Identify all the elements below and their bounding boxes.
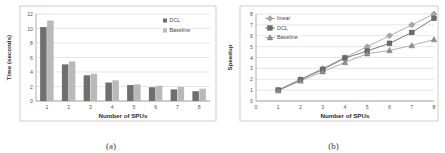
- bar-chart-plot-area: 02468101212345678Number of SPUsTime (sec…: [0, 0, 222, 125]
- y-axis-title: Time (seconds): [5, 35, 12, 80]
- bar-dcl: [149, 87, 156, 101]
- panel-b-caption: (b): [222, 141, 445, 151]
- legend-label-baseline: Baseline: [277, 34, 298, 40]
- x-tick-label: 7: [176, 104, 179, 110]
- panel-a-caption: (a): [0, 141, 222, 151]
- bar-baseline: [69, 61, 76, 101]
- marker-dcl: [409, 30, 414, 35]
- x-tick-label: 8: [433, 104, 436, 110]
- bar-dcl: [105, 83, 112, 101]
- x-tick-label: 3: [89, 104, 92, 110]
- y-tick-label: 7: [250, 22, 253, 28]
- line-chart-svg: 012345678012345678Number of SPUsSpeedupl…: [222, 0, 445, 125]
- bar-dcl: [84, 75, 91, 101]
- bar-dcl: [171, 89, 178, 101]
- marker-baseline: [431, 37, 437, 42]
- y-tick-label: 6: [30, 55, 33, 61]
- bar-dcl: [192, 91, 199, 101]
- x-tick-label: 3: [321, 104, 324, 110]
- y-tick-label: 3: [250, 65, 253, 71]
- panel-b: 012345678012345678Number of SPUsSpeedupl…: [222, 0, 445, 153]
- marker-dcl: [387, 41, 392, 46]
- chart-frame: [240, 6, 438, 121]
- y-tick-label: 5: [250, 44, 253, 50]
- y-tick-label: 2: [250, 76, 253, 82]
- x-tick-label: 1: [45, 104, 48, 110]
- bar-chart-svg: 02468101212345678Number of SPUsTime (sec…: [0, 0, 222, 125]
- legend-label-dcl: DCL: [170, 17, 181, 23]
- bar-baseline: [199, 89, 206, 101]
- bar-baseline: [156, 86, 163, 101]
- x-axis-title: Number of SPUs: [321, 112, 370, 119]
- x-tick-label: 6: [388, 104, 391, 110]
- x-tick-label: 2: [67, 104, 70, 110]
- y-tick-label: 0: [30, 98, 33, 104]
- y-tick-label: 12: [27, 11, 33, 17]
- y-tick-label: 4: [30, 69, 33, 75]
- marker-linear: [409, 22, 415, 28]
- x-tick-label: 4: [111, 104, 114, 110]
- bar-dcl: [62, 64, 69, 101]
- y-tick-label: 0: [250, 98, 253, 104]
- x-tick-label: 8: [198, 104, 201, 110]
- bar-baseline: [47, 21, 54, 101]
- y-tick-label: 1: [250, 87, 253, 93]
- legend-label-baseline: Baseline: [170, 27, 191, 33]
- x-tick-label: 2: [299, 104, 302, 110]
- line-chart-plot-area: 012345678012345678Number of SPUsSpeedupl…: [222, 0, 445, 125]
- legend-label-dcl: DCL: [277, 25, 288, 31]
- x-tick-label: 6: [154, 104, 157, 110]
- figure-two-panel-charts: 02468101212345678Number of SPUsTime (sec…: [0, 0, 445, 153]
- marker-dcl: [432, 16, 437, 21]
- legend-marker-linear: [267, 16, 273, 22]
- y-tick-label: 4: [250, 55, 253, 61]
- y-tick-label: 8: [30, 40, 33, 46]
- marker-linear: [387, 33, 393, 39]
- bar-dcl: [40, 27, 47, 101]
- bar-baseline: [112, 80, 119, 101]
- bar-baseline: [134, 84, 141, 101]
- x-tick-label: 0: [255, 104, 258, 110]
- x-tick-label: 5: [132, 104, 135, 110]
- x-tick-label: 5: [366, 104, 369, 110]
- bar-baseline: [178, 87, 185, 101]
- bar-dcl: [127, 85, 134, 101]
- legend-swatch-baseline: [163, 29, 167, 33]
- y-tick-label: 10: [27, 26, 33, 32]
- bar-baseline: [91, 74, 98, 101]
- x-tick-label: 1: [277, 104, 280, 110]
- legend-marker-dcl: [268, 26, 273, 31]
- x-tick-label: 4: [344, 104, 347, 110]
- panel-a: 02468101212345678Number of SPUsTime (sec…: [0, 0, 222, 153]
- y-tick-label: 8: [250, 11, 253, 17]
- y-tick-label: 6: [250, 33, 253, 39]
- y-axis-title: Speedup: [226, 44, 233, 70]
- y-tick-label: 2: [30, 84, 33, 90]
- x-tick-label: 7: [410, 104, 413, 110]
- x-axis-title: Number of SPUs: [99, 112, 148, 119]
- legend-swatch-dcl: [163, 19, 167, 23]
- legend-label-linear: linear: [277, 15, 290, 21]
